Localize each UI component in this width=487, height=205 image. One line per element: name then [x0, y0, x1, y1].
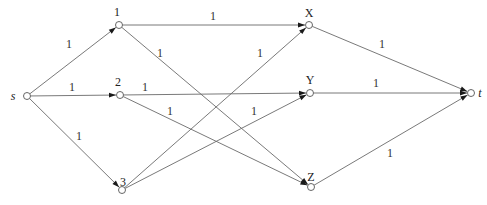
edge-Z-t	[314, 95, 468, 185]
edges-layer	[29, 25, 467, 188]
edge-capacity-label: 1	[251, 104, 257, 118]
flow-network-diagram: 111111111111 s123XYZt	[0, 0, 487, 205]
node-t	[468, 90, 475, 97]
node-label-t: t	[478, 86, 482, 100]
node-label-Y: Y	[306, 73, 315, 87]
node-labels-layer: s123XYZt	[11, 5, 483, 189]
edge-capacity-label: 1	[379, 37, 385, 51]
edge-s-3	[29, 98, 119, 187]
edge-capacity-label: 1	[210, 9, 216, 23]
nodes-layer	[24, 22, 475, 194]
node-label-s: s	[11, 89, 16, 103]
node-Z	[308, 184, 315, 191]
edge-capacity-label: 1	[69, 80, 75, 94]
edge-capacity-label: 1	[142, 80, 148, 94]
edge-capacity-label: 1	[157, 46, 163, 60]
node-s	[24, 93, 31, 100]
node-label-X: X	[305, 6, 314, 20]
node-2	[117, 92, 124, 99]
edge-2-Y	[123, 93, 306, 95]
edge-3-X	[125, 28, 306, 188]
edge-capacity-label: 1	[387, 146, 393, 160]
node-label-3: 3	[120, 175, 126, 189]
edge-capacity-label: 1	[373, 76, 379, 90]
node-X	[306, 22, 313, 29]
diagram-svg: 111111111111 s123XYZt	[0, 0, 487, 205]
edge-capacity-label: 1	[76, 129, 82, 143]
node-1	[116, 22, 123, 29]
edge-3-Y	[125, 95, 306, 189]
edge-capacity-label: 1	[257, 46, 263, 60]
edge-capacity-label: 1	[66, 37, 72, 51]
edge-X-t	[312, 26, 467, 91]
edge-capacity-label: 1	[167, 104, 173, 118]
node-label-Z: Z	[307, 170, 314, 184]
node-label-1: 1	[114, 5, 120, 19]
node-Y	[307, 90, 314, 97]
node-label-2: 2	[115, 75, 121, 89]
edge-2-Z	[123, 97, 307, 186]
edge-s-2	[30, 95, 116, 96]
